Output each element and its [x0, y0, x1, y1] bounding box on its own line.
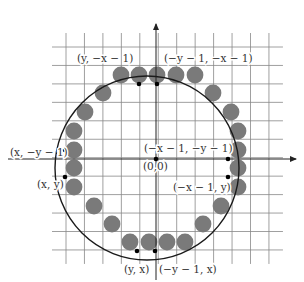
- symmetry-point: [153, 249, 158, 254]
- coordinate-label: (−y − 1, −x − 1): [164, 52, 253, 64]
- circle-symmetry-diagram: (y, −x − 1)(y, −x − 1)(−y − 1, −x − 1)(−…: [0, 0, 304, 282]
- pixel-disc: [66, 123, 83, 140]
- coordinate-label: (x, y): [37, 178, 64, 190]
- coordinate-label: (0,0): [143, 160, 168, 172]
- pixel-disc: [131, 67, 148, 84]
- pixel-disc: [230, 160, 247, 177]
- pixel-disc: [213, 198, 230, 215]
- pixel-disc: [122, 234, 139, 251]
- pixel-disc: [86, 198, 103, 215]
- pixel-disc: [66, 142, 83, 159]
- symmetry-point: [137, 82, 142, 87]
- coordinate-label: (−x − 1, y): [173, 181, 231, 193]
- coordinate-label: (−y − 1, x): [159, 263, 217, 275]
- pixel-disc: [104, 216, 121, 233]
- coordinate-label: (x, −y − 1): [10, 146, 68, 158]
- pixel-disc: [223, 104, 240, 121]
- coordinate-label: (−x − 1, −y − 1): [144, 142, 233, 154]
- coordinate-label: (y, x): [124, 263, 149, 275]
- pixel-disc: [195, 216, 212, 233]
- pixel-disc: [159, 234, 176, 251]
- pixel-disc: [66, 179, 83, 196]
- pixel-disc: [230, 123, 247, 140]
- symmetry-point: [155, 82, 160, 87]
- symmetry-point: [226, 157, 231, 162]
- pixel-disc: [187, 67, 204, 84]
- symmetry-point: [135, 249, 140, 254]
- pixel-disc: [113, 67, 130, 84]
- pixel-disc: [66, 160, 83, 177]
- pixel-disc: [177, 234, 194, 251]
- pixel-disc: [149, 67, 166, 84]
- coordinate-label: (y, −x − 1): [77, 52, 133, 64]
- symmetry-point: [226, 175, 231, 180]
- pixel-disc: [141, 234, 158, 251]
